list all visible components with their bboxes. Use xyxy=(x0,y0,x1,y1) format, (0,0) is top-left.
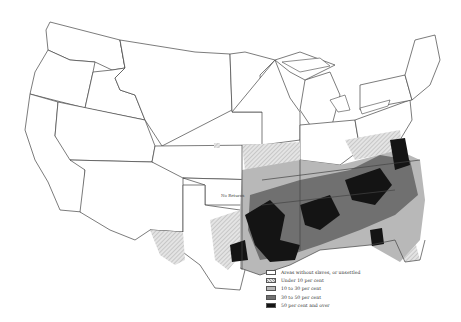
legend-label: 30 to 50 per cent xyxy=(281,295,321,300)
legend: Areas without slaves, or unsettled Under… xyxy=(266,268,360,310)
us-map xyxy=(0,0,461,322)
swatch-none xyxy=(266,270,276,275)
legend-label: Under 10 per cent xyxy=(281,278,324,283)
legend-item-none: Areas without slaves, or unsettled xyxy=(266,268,360,276)
swatch-under-10 xyxy=(266,278,276,283)
legend-item-50-and-over: 50 per cent and over xyxy=(266,302,360,310)
legend-item-under-10: Under 10 per cent xyxy=(266,276,360,284)
legend-label: 50 per cent and over xyxy=(281,303,330,308)
no-returns-label: No Returns xyxy=(221,193,244,198)
swatch-30-to-50 xyxy=(266,295,276,300)
legend-item-30-to-50: 30 to 50 per cent xyxy=(266,293,360,301)
legend-label: 10 to 30 per cent xyxy=(281,286,321,291)
swatch-50-and-over xyxy=(266,303,276,308)
swatch-10-to-30 xyxy=(266,286,276,291)
legend-item-10-to-30: 10 to 30 per cent xyxy=(266,285,360,293)
legend-label: Areas without slaves, or unsettled xyxy=(281,270,360,275)
